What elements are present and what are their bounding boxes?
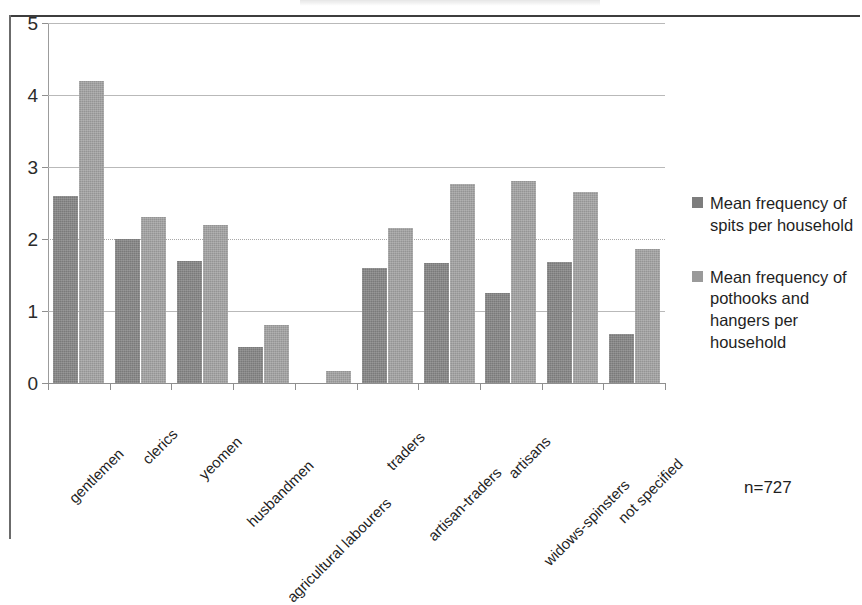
plot-area xyxy=(48,23,665,383)
x-axis-category-label: husbandmen xyxy=(244,457,316,529)
y-axis-label: 1 xyxy=(8,302,38,321)
x-axis-category-label: artisan-traders xyxy=(425,464,504,543)
x-axis-tick xyxy=(480,383,481,390)
bar xyxy=(115,239,140,383)
legend-label-pothooks: Mean frequency of pothooks and hangers p… xyxy=(710,267,857,354)
legend-swatch-icon-pothooks xyxy=(692,271,703,282)
y-axis-label: 5 xyxy=(8,14,38,33)
bar xyxy=(79,81,104,383)
bar xyxy=(326,371,351,383)
x-axis-tick xyxy=(542,383,543,390)
x-axis-tick xyxy=(110,383,111,390)
y-axis-label: 2 xyxy=(8,230,38,249)
bar xyxy=(388,228,413,383)
bar xyxy=(238,347,263,383)
y-axis-label: 0 xyxy=(8,374,38,393)
bar xyxy=(141,217,166,383)
x-axis-tick xyxy=(603,383,604,390)
y-axis-label: 3 xyxy=(8,158,38,177)
x-axis-category-label: clerics xyxy=(139,426,180,467)
x-axis-tick xyxy=(171,383,172,390)
x-axis-category-label: traders xyxy=(384,429,428,473)
sample-size-annotation: n=727 xyxy=(744,478,792,498)
legend-swatch-icon-spits xyxy=(692,197,703,208)
bar xyxy=(485,293,510,383)
bar xyxy=(547,262,572,383)
gridline xyxy=(48,95,665,96)
x-axis-category-label: agricultural labourers xyxy=(284,495,394,605)
bar xyxy=(177,261,202,383)
bar xyxy=(450,184,475,383)
bar xyxy=(53,196,78,383)
bar xyxy=(264,325,289,383)
legend-label-spits: Mean frequency of spits per household xyxy=(710,193,857,237)
bar xyxy=(511,181,536,383)
x-axis-tick xyxy=(665,383,666,390)
bar xyxy=(635,249,660,383)
x-axis-tick xyxy=(295,383,296,390)
legend-item-spits: Mean frequency of spits per household xyxy=(692,193,857,237)
bar xyxy=(362,268,387,383)
gridline xyxy=(48,23,665,24)
x-axis-tick xyxy=(48,383,49,390)
x-axis-tick xyxy=(357,383,358,390)
x-axis-tick xyxy=(233,383,234,390)
x-axis-category-label: widows-spinsters xyxy=(541,477,632,568)
bar xyxy=(424,263,449,383)
y-axis-label: 4 xyxy=(8,86,38,105)
bar xyxy=(609,334,634,383)
x-axis-category-label: yeomen xyxy=(196,434,244,482)
x-axis-category-label: gentlemen xyxy=(66,446,126,506)
gridline xyxy=(48,167,665,168)
legend-item-pothooks: Mean frequency of pothooks and hangers p… xyxy=(692,267,857,354)
bar xyxy=(203,225,228,383)
chart-legend: Mean frequency of spits per household Me… xyxy=(692,193,857,384)
x-axis-tick xyxy=(418,383,419,390)
bar xyxy=(573,192,598,383)
x-axis-category-label: artisans xyxy=(505,433,553,481)
